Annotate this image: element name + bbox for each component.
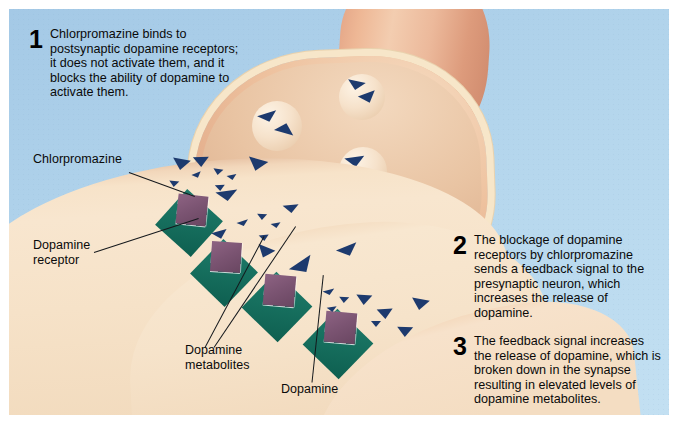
dopamine-metabolite-triangle	[215, 185, 225, 192]
dopamine-triangle	[193, 157, 209, 168]
dopamine-metabolite-triangle	[339, 297, 349, 304]
callout-chlorpromazine: Chlorpromazine	[33, 152, 122, 167]
step-1-number: 1	[29, 27, 48, 51]
dopamine-metabolite-triangle	[257, 214, 267, 220]
step-2-number: 2	[453, 233, 472, 257]
step-1-text: Chlorpromazine binds to postsynaptic dop…	[50, 27, 238, 100]
illustration-plate: Chlorpromazine Dopamine receptor Dopamin…	[9, 9, 669, 415]
chlorpromazine-molecule	[210, 241, 242, 273]
illustration-figure: Chlorpromazine Dopamine receptor Dopamin…	[0, 0, 678, 430]
callout-dopamine-metabolites: Dopamine metabolites	[185, 343, 249, 372]
step-3-number: 3	[453, 334, 472, 358]
chlorpromazine-molecule	[324, 311, 358, 345]
callout-dopamine-receptor: Dopamine receptor	[33, 238, 90, 267]
step-3: 3 The feedback signal increases the rele…	[453, 334, 665, 407]
step-1: 1 Chlorpromazine binds to postsynaptic d…	[29, 27, 279, 100]
dopamine-triangle	[356, 294, 373, 305]
dopamine-metabolite-triangle	[213, 168, 224, 175]
chlorpromazine-molecule	[176, 194, 209, 227]
step-3-text: The feedback signal increases the releas…	[474, 334, 661, 407]
chlorpromazine-molecule	[263, 274, 297, 308]
dopamine-triangle	[283, 204, 300, 214]
callout-dopamine: Dopamine	[281, 382, 338, 397]
step-2-text: The blockage of dopamine receptors by ch…	[474, 233, 644, 321]
dopamine-triangle	[377, 308, 394, 319]
dopamine-metabolite-triangle	[371, 321, 381, 327]
step-2: 2 The blockage of dopamine receptors by …	[453, 233, 663, 321]
dopamine-triangle	[397, 327, 413, 338]
